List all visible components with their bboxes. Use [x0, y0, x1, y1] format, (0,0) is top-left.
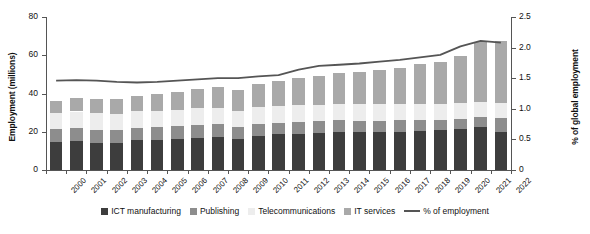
bar-segment — [373, 70, 386, 104]
bar-segment — [434, 120, 447, 131]
bar-segment — [110, 130, 123, 143]
bar-segment — [191, 138, 204, 171]
y-axis-right-tick-label: 2.0 — [519, 42, 553, 52]
bar-segment — [313, 105, 326, 122]
bar-segment — [414, 120, 427, 131]
legend-item[interactable]: Telecommunications — [248, 206, 335, 216]
bar-segment — [70, 98, 83, 112]
y-axis-right-tick-label: 1.0 — [519, 103, 553, 113]
legend-item[interactable]: Publishing — [190, 206, 239, 216]
bar-segment — [414, 131, 427, 170]
x-axis-label: 2015 — [373, 176, 392, 195]
x-axis-tick — [511, 170, 512, 174]
chart-legend: ICT manufacturingPublishingTelecommunica… — [0, 206, 590, 216]
x-axis-line — [46, 170, 512, 171]
x-axis-label: 2000 — [69, 176, 88, 195]
legend-item[interactable]: % of employment — [404, 206, 489, 216]
legend-item[interactable]: IT services — [344, 206, 395, 216]
bar-column — [414, 17, 427, 170]
bar-segment — [90, 113, 103, 130]
bar-segment — [495, 118, 508, 131]
bar-column — [212, 17, 225, 170]
bar-segment — [313, 121, 326, 133]
bar-segment — [292, 105, 305, 122]
y-axis-right-tick — [512, 48, 516, 49]
bar-segment — [313, 133, 326, 170]
x-axis-tick — [450, 170, 451, 174]
bar-segment — [333, 120, 346, 132]
x-axis-label: 2019 — [453, 176, 472, 195]
bar-segment — [474, 127, 487, 170]
bar-segment — [474, 117, 487, 127]
bar-segment — [131, 96, 144, 112]
bar-segment — [454, 56, 467, 103]
bar-column — [232, 17, 245, 170]
bar-segment — [454, 129, 467, 170]
x-axis-label: 2006 — [191, 176, 210, 195]
legend-label: Publishing — [200, 206, 239, 216]
bar-segment — [212, 108, 225, 125]
bar-segment — [212, 137, 225, 170]
legend-item[interactable]: ICT manufacturing — [101, 206, 181, 216]
bar-segment — [171, 126, 184, 138]
bar-segment — [232, 111, 245, 127]
bar-segment — [131, 111, 144, 127]
bar-segment — [353, 132, 366, 170]
bar-segment — [232, 127, 245, 139]
y-axis-left-tick-label: 0 — [8, 164, 38, 174]
bar-column — [191, 17, 204, 170]
bar-segment — [454, 103, 467, 119]
bar-segment — [474, 42, 487, 102]
x-axis-label: 2005 — [170, 176, 189, 195]
x-axis-tick — [349, 170, 350, 174]
x-axis-label: 2010 — [271, 176, 290, 195]
x-axis-tick — [127, 170, 128, 174]
y-axis-right-tick — [512, 78, 516, 79]
bar-column — [474, 17, 487, 170]
y-axis-left-tick-label: 60 — [8, 49, 38, 59]
bar-segment — [394, 68, 407, 105]
legend-color-swatch — [344, 208, 351, 215]
x-axis-tick — [329, 170, 330, 174]
bar-segment — [252, 124, 265, 136]
x-axis-label: 2018 — [433, 176, 452, 195]
bar-segment — [50, 142, 63, 170]
x-axis-label: 2002 — [110, 176, 129, 195]
bar-segment — [110, 99, 123, 114]
bar-segment — [171, 139, 184, 170]
bar-segment — [50, 101, 63, 113]
x-axis-tick — [430, 170, 431, 174]
bar-segment — [131, 140, 144, 170]
bar-segment — [333, 73, 346, 104]
bar-segment — [414, 64, 427, 103]
y-axis-right-tick-label: 1.5 — [519, 72, 553, 82]
x-axis-tick — [289, 170, 290, 174]
bar-column — [252, 17, 265, 170]
bar-column — [313, 17, 326, 170]
y-axis-right-tick-label: 0 — [519, 164, 553, 174]
y-axis-right-tick — [512, 170, 516, 171]
bar-segment — [70, 141, 83, 170]
bar-column — [333, 17, 346, 170]
bar-column — [90, 17, 103, 170]
bar-segment — [495, 41, 508, 103]
x-axis-tick — [471, 170, 472, 174]
bar-segment — [191, 108, 204, 125]
bar-segment — [313, 76, 326, 105]
bar-segment — [373, 104, 386, 120]
bar-segment — [90, 99, 103, 113]
x-axis-tick — [167, 170, 168, 174]
bar-segment — [151, 111, 164, 127]
legend-label: IT services — [354, 206, 395, 216]
x-axis-label: 2009 — [251, 176, 270, 195]
x-axis-tick — [248, 170, 249, 174]
bar-segment — [454, 119, 467, 129]
x-axis-tick — [268, 170, 269, 174]
bar-column — [110, 17, 123, 170]
bar-segment — [110, 114, 123, 130]
bar-segment — [353, 72, 366, 105]
y-axis-right-tick — [512, 109, 516, 110]
bar-segment — [131, 128, 144, 141]
bar-segment — [474, 102, 487, 117]
x-axis-tick — [491, 170, 492, 174]
